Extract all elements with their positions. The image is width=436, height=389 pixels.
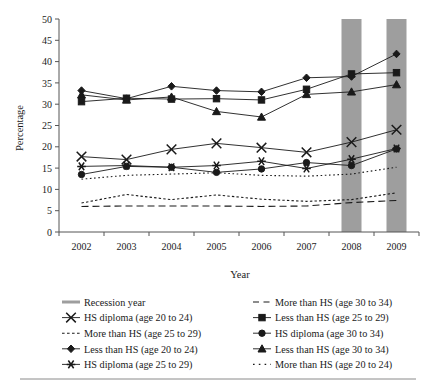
data-point-circle bbox=[348, 162, 354, 168]
x-tick-label: 2004 bbox=[162, 241, 182, 252]
y-tick-label: 20 bbox=[42, 141, 52, 152]
data-point-square bbox=[258, 97, 264, 103]
legend-item-label: Recession year bbox=[84, 297, 146, 308]
data-point-circle bbox=[78, 171, 84, 177]
data-point-circle bbox=[303, 159, 309, 165]
data-point-circle bbox=[258, 166, 264, 172]
y-tick-label: 40 bbox=[42, 56, 52, 67]
data-point-square bbox=[393, 69, 399, 75]
y-tick-label: 45 bbox=[42, 35, 52, 46]
x-tick-label: 2008 bbox=[342, 241, 362, 252]
figure-container: 05101520253035404550 2002200320042005200… bbox=[0, 0, 436, 389]
percentage-by-education-line-chart: 05101520253035404550 2002200320042005200… bbox=[0, 0, 436, 389]
legend-item-label: HS diploma (age 30 to 34) bbox=[275, 328, 383, 340]
legend-item-label: More than HS (age 20 to 24) bbox=[275, 359, 392, 371]
x-tick-label: 2009 bbox=[387, 241, 407, 252]
x-tick-label: 2005 bbox=[207, 241, 227, 252]
data-point-circle bbox=[168, 164, 174, 170]
data-point-square bbox=[348, 71, 354, 77]
y-tick-label: 15 bbox=[42, 163, 52, 174]
legend-item-label: Less than HS (age 20 to 24) bbox=[84, 344, 198, 356]
x-tick-label: 2002 bbox=[72, 241, 92, 252]
data-point-circle bbox=[123, 163, 129, 169]
x-axis-title: Year bbox=[230, 269, 250, 280]
x-tick-label: 2003 bbox=[117, 241, 137, 252]
data-point-circle bbox=[393, 146, 399, 152]
legend-item-label: HS diploma (age 25 to 29) bbox=[84, 359, 192, 371]
data-point-square bbox=[213, 95, 219, 101]
legend-item-label: More than HS (age 30 to 34) bbox=[275, 297, 392, 309]
y-tick-label: 0 bbox=[47, 227, 52, 238]
y-tick-label: 35 bbox=[42, 78, 52, 89]
data-point-square bbox=[78, 98, 84, 104]
legend-item-label: HS diploma (age 20 to 24) bbox=[84, 312, 192, 324]
x-tick-label: 2006 bbox=[252, 241, 272, 252]
x-tick-label: 2007 bbox=[297, 241, 317, 252]
data-point-circle bbox=[259, 330, 265, 336]
y-tick-label: 5 bbox=[47, 205, 52, 216]
legend-item-label: More than HS (age 25 to 29) bbox=[84, 328, 201, 340]
legend-item-label: Less than HS (age 30 to 34) bbox=[275, 344, 389, 356]
y-axis-title: Percentage bbox=[14, 105, 25, 151]
y-tick-label: 25 bbox=[42, 120, 52, 131]
y-tick-label: 30 bbox=[42, 99, 52, 110]
legend-item-label: Less than HS (age 25 to 29) bbox=[275, 312, 389, 324]
y-tick-label: 10 bbox=[42, 184, 52, 195]
data-point-square bbox=[259, 314, 265, 320]
y-tick-label: 50 bbox=[42, 14, 52, 25]
